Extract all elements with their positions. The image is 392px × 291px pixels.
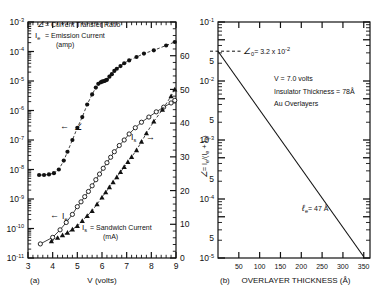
data-point (86, 189, 90, 193)
is-definition: Is (82, 223, 87, 233)
y-right-tick-label: 20 (180, 186, 190, 196)
data-point (42, 173, 46, 177)
y-right-tick-label: 10 (180, 219, 190, 229)
x-tick-label: 250 (316, 263, 328, 270)
data-point (105, 161, 109, 165)
data-point (97, 172, 101, 176)
data-point (134, 148, 139, 153)
data-point (107, 185, 112, 190)
x-tick-label: 7 (124, 261, 129, 271)
data-point (122, 138, 126, 142)
legend-ie-text: = Emission Current (45, 32, 105, 39)
data-point (142, 51, 146, 55)
data-point (117, 143, 121, 147)
data-point (101, 166, 105, 170)
data-point (65, 230, 70, 235)
data-point (127, 58, 131, 62)
y-tick-label: 10-1 (200, 17, 214, 28)
data-point (62, 159, 66, 163)
y-tick-label: 10-6 (10, 105, 24, 116)
legend-ie-unit: (amp) (56, 41, 74, 49)
x-tick-label: 50 (235, 263, 243, 270)
data-point (57, 167, 61, 171)
y-tick-label: 10-4 (200, 194, 214, 205)
data-point (52, 171, 56, 175)
figure-container: 10-3 10-4 10-5 10-6 10-7 10-8 10-9 10-10… (0, 0, 392, 291)
data-point (85, 102, 89, 106)
data-point (38, 242, 42, 246)
y-tick-label: 10-2 (200, 76, 214, 87)
x-tick-label: 200 (295, 263, 307, 270)
panel-a: 10-3 10-4 10-5 10-6 10-7 10-8 10-9 10-10… (0, 0, 196, 291)
is-definition-text: = Sandwich Current (90, 224, 152, 231)
panel-b: 10-1 5 10-2 5 10-3 5 10-4 5 10-5 50 100 … (196, 0, 392, 291)
data-point (58, 228, 62, 232)
voltage-annotation: V = 7.0 volts (274, 75, 313, 82)
x-tick-label: 6 (100, 261, 105, 271)
x-tick-label: 100 (254, 263, 266, 270)
data-point (75, 205, 79, 209)
data-point (55, 235, 60, 240)
y-tick-label: 10-11 (7, 253, 24, 264)
x-tick-label: 3 (26, 261, 31, 271)
y-tick-label: 5 (209, 174, 214, 184)
legend-ie-symbol: Ie (35, 31, 40, 41)
data-point (154, 110, 158, 114)
x-tick-label: 350 (358, 263, 370, 270)
data-point (94, 85, 98, 89)
data-point (115, 67, 119, 71)
y-tick-label: 10-5 (200, 253, 214, 264)
panel-a-svg: 10-3 10-4 10-5 10-6 10-7 10-8 10-9 10-10… (0, 0, 196, 291)
overlayers-annotation: Au Overlayers (274, 100, 319, 108)
x-tick-label: 9 (174, 261, 179, 271)
data-point (70, 227, 75, 232)
legend-alpha-text: = Current Transfer Ratio (45, 21, 120, 28)
is-curve-label: Is (131, 132, 136, 143)
panel-b-tickmarks (218, 22, 370, 258)
y-right-tick-label: 40 (180, 118, 190, 128)
data-point (80, 115, 84, 119)
data-point (83, 195, 87, 199)
panel-a-y-left-ticklabels: 10-3 10-4 10-5 10-6 10-7 10-8 10-9 10-10… (6, 17, 24, 264)
panel-b-frame (218, 22, 370, 258)
x-tick-label: 4 (50, 261, 55, 271)
y-tick-label: 5 (209, 56, 214, 66)
data-point (47, 172, 51, 176)
data-point (65, 150, 69, 154)
data-point (90, 92, 94, 96)
series-curve (39, 42, 175, 175)
data-point (122, 164, 127, 169)
data-point (111, 180, 116, 185)
y-tick-label: 10-7 (10, 135, 24, 146)
data-point (133, 126, 137, 130)
lambda-e-annotation: ℓe= 47 Å (301, 203, 329, 214)
data-point (139, 139, 144, 144)
ie-curve-label: Ie (62, 211, 68, 222)
data-point (173, 40, 177, 44)
x-tick-label: 5 (75, 261, 80, 271)
panel-b-annotations: ∠0= 3.2 x 10-2 V = 7.0 volts Insulator T… (243, 46, 355, 214)
data-point (134, 55, 138, 59)
panel-a-legend: ∠ = Current Transfer Ratio Ie = Emission… (35, 20, 120, 49)
panel-a-label: (a) (30, 276, 40, 285)
panel-a-y-right-ticklabels: 0 10 20 30 40 50 60 (180, 51, 190, 263)
data-point (51, 235, 55, 239)
ie-arrow: ← (50, 210, 59, 220)
x-tick-label: 300 (337, 263, 349, 270)
data-point (147, 115, 151, 119)
data-point (164, 43, 168, 47)
data-point (109, 155, 113, 159)
is-arrow: → (146, 132, 155, 142)
y-right-tick-label: 0 (180, 253, 185, 263)
data-point (90, 208, 95, 213)
data-point (139, 120, 143, 124)
y-right-tick-label: 50 (180, 85, 190, 95)
y-tick-label: 10-10 (6, 223, 24, 234)
x-tick-label: 8 (149, 261, 154, 271)
data-point (125, 159, 130, 164)
data-point (112, 150, 116, 154)
alpha-arrow: ← (60, 121, 69, 131)
legend-alpha-symbol: ∠ (37, 20, 44, 29)
panel-b-svg: 10-1 5 10-2 5 10-3 5 10-4 5 10-5 50 100 … (196, 0, 392, 291)
data-point (70, 138, 74, 142)
